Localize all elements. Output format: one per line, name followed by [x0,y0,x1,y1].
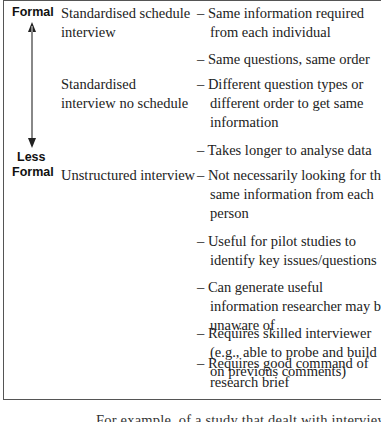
characteristic-item: – Same questions, same order [197,50,381,69]
characteristic-item: – Not necessarily looking for the same i… [197,166,381,223]
arrow-down-icon [28,138,36,148]
characteristic-item: – Different question types or different … [197,75,381,132]
scale-label-formal-bottom: Formal [12,165,54,180]
characteristic-item: – Same information required from each in… [197,4,381,42]
caption-text-partial: For example, of a study that dealt with … [96,412,381,422]
scale-label-formal: Formal [12,5,54,20]
scale-label-less: Less [17,150,46,165]
interview-type-standardised-schedule: Standardised schedule interview [61,4,191,42]
characteristic-item: – Useful for pilot studies to identify k… [197,232,381,270]
characteristic-item: – Requires good command of research brie… [197,354,381,392]
interview-type-standardised-no-schedule: Standardised interview no schedule [61,75,191,113]
characteristic-item: – Takes longer to analyse data [197,141,381,160]
interview-type-unstructured: Unstructured interview [61,166,201,185]
formality-scale-line [31,26,33,142]
